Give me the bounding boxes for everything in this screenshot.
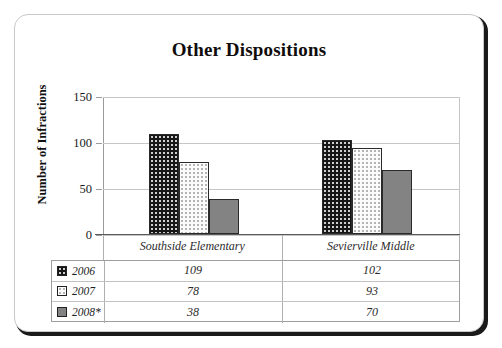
y-tick-0 <box>96 235 102 236</box>
chart-card: Other Dispositions Number of Infractions… <box>14 14 484 332</box>
legend-label-2008: 2008* <box>72 306 101 318</box>
y-tick-150 <box>96 97 102 98</box>
table-row: 2006 109 102 <box>52 261 459 282</box>
category-row: Southside Elementary Sevierville Middle <box>103 235 460 260</box>
legend-label-2007: 2007 <box>72 285 95 297</box>
chart-title: Other Dispositions <box>15 39 483 61</box>
table-row: 2007 78 93 <box>52 282 459 303</box>
y-tick-label-150: 150 <box>73 90 92 105</box>
table-row: 2008* 38 70 <box>52 302 459 323</box>
y-axis-title: Number of Infractions <box>35 65 50 225</box>
bar-2007-sevierville-middle <box>352 148 382 234</box>
legend-cell-2008: 2008* <box>52 302 104 323</box>
table-cell-2006-southside: 109 <box>104 261 282 281</box>
table-cell-2007-southside: 78 <box>104 282 282 302</box>
table-cell-2008-sevierville: 70 <box>283 302 461 323</box>
bar-2006-sevierville-middle <box>322 140 352 234</box>
legend-swatch-2006-icon <box>57 266 67 276</box>
y-axis-line <box>103 97 104 235</box>
gridline-150 <box>103 97 460 98</box>
y-tick-label-100: 100 <box>73 136 92 151</box>
bar-2008-southside-elementary <box>209 199 239 234</box>
table-cell-2006-sevierville: 102 <box>283 261 461 281</box>
category-label-sevierville-middle: Sevierville Middle <box>282 239 461 254</box>
table-cell-2007-sevierville: 93 <box>283 282 461 302</box>
legend-swatch-2007-icon <box>57 286 67 296</box>
y-tick-label-0: 0 <box>86 228 92 243</box>
category-label-southside-elementary: Southside Elementary <box>103 239 282 254</box>
legend-label-2006: 2006 <box>72 265 95 277</box>
table-cell-2008-southside: 38 <box>104 302 282 323</box>
data-table: 2006 109 102 2007 78 93 2008* 38 <box>51 260 460 322</box>
y-tick-100 <box>96 143 102 144</box>
bar-2006-southside-elementary <box>149 134 179 234</box>
legend-cell-2006: 2006 <box>52 261 104 281</box>
plot-area: 050100150 <box>103 97 460 235</box>
legend-cell-2007: 2007 <box>52 282 104 302</box>
legend-swatch-2008-icon <box>57 307 67 317</box>
plot-right-border <box>459 97 460 235</box>
bar-2008-sevierville-middle <box>382 170 412 234</box>
bar-2007-southside-elementary <box>179 162 209 234</box>
y-tick-label-50: 50 <box>80 182 93 197</box>
y-tick-50 <box>96 189 102 190</box>
